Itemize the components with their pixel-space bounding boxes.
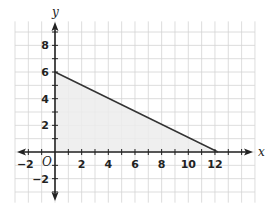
x-tick-label: 2 (78, 158, 86, 171)
y-tick-label: 6 (41, 66, 49, 79)
y-tick-label: 4 (41, 93, 49, 106)
x-axis-label: x (258, 145, 265, 159)
x-tick-label: 12 (207, 158, 222, 171)
x-tick-label: 4 (104, 158, 112, 171)
x-tick-label: 10 (181, 158, 197, 171)
y-axis-label: y (51, 5, 59, 19)
x-tick-label: 6 (131, 158, 139, 171)
y-tick-label: 8 (41, 39, 49, 52)
coordinate-plane: −224681012−22468 x y O (0, 0, 279, 210)
origin-label: O (42, 155, 52, 169)
y-tick-label: −2 (32, 173, 49, 186)
x-tick-label: −2 (17, 158, 34, 171)
y-tick-label: 2 (41, 119, 49, 132)
x-tick-label: 8 (158, 158, 166, 171)
